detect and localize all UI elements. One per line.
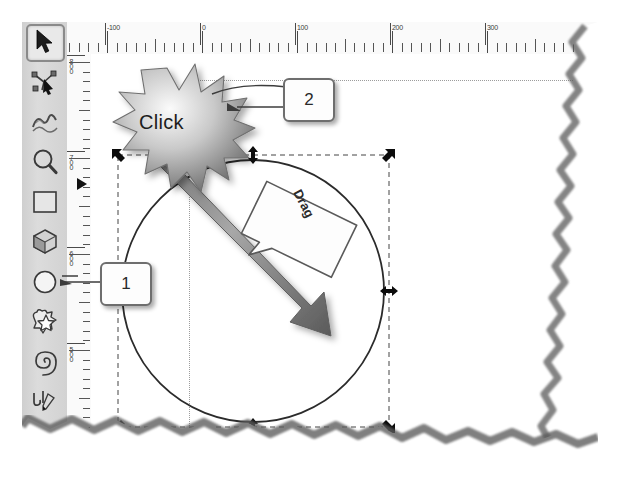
arrow-cursor-icon (34, 29, 56, 55)
callout-2-number: 2 (304, 90, 313, 110)
calligraphy-pen-icon (31, 429, 59, 455)
guide-marker-icon (77, 178, 88, 190)
selection-bbox (118, 155, 389, 427)
tool-calligraphy[interactable] (22, 422, 67, 462)
hruler-label: -100 (107, 24, 120, 31)
node-edit-icon (31, 69, 59, 95)
click-starburst (113, 64, 255, 192)
click-label: Click (139, 111, 184, 134)
callout-2[interactable]: 2 (283, 78, 335, 122)
spiral-icon (31, 348, 59, 376)
vruler-label: 700 (68, 154, 75, 169)
tool-palette (22, 22, 68, 447)
tool-node-editor[interactable] (22, 62, 67, 102)
tool-tweak[interactable] (22, 102, 67, 142)
wave-tweak-icon (31, 111, 59, 133)
tool-pencil[interactable] (22, 382, 67, 422)
handle-e[interactable] (380, 286, 398, 296)
tool-3d-box[interactable] (22, 222, 67, 262)
tool-selector[interactable] (22, 22, 67, 62)
pencil-icon (31, 389, 59, 415)
callout-1[interactable]: 1 (100, 262, 152, 306)
vruler-label: 500 (68, 346, 75, 361)
tool-zoom[interactable] (22, 142, 67, 182)
drawing-canvas[interactable]: Click Drag 2 (91, 54, 598, 447)
tool-star[interactable] (22, 302, 67, 342)
horizontal-ruler[interactable]: -100 0 100 200 300 (67, 22, 598, 55)
circle-icon (32, 270, 58, 294)
tool-spiral[interactable] (22, 342, 67, 382)
drawn-circle[interactable] (122, 160, 384, 422)
star-icon (31, 309, 59, 335)
hruler-label: 100 (297, 24, 308, 31)
tool-rectangle[interactable] (22, 182, 67, 222)
handle-se[interactable] (382, 420, 395, 433)
selection-handles[interactable] (109, 146, 398, 436)
hruler-label: 200 (392, 24, 403, 31)
vertical-ruler[interactable]: 800 700 600 500 (67, 54, 92, 447)
cube-icon (32, 229, 58, 255)
magnifier-icon (31, 148, 59, 176)
hruler-label: 0 (202, 24, 206, 31)
hruler-label: 300 (487, 24, 498, 31)
torn-page-surface: -100 0 100 200 300 800 700 600 500 (22, 22, 598, 462)
editor-window: -100 0 100 200 300 800 700 600 500 (0, 0, 624, 493)
square-icon (32, 190, 58, 214)
vruler-label: 800 (68, 58, 75, 73)
callout-1-number: 1 (121, 274, 130, 294)
